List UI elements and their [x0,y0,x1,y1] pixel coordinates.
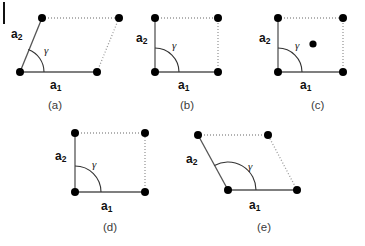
panel-c-caption: (c) [311,99,324,111]
panel-e-lattice-point-2 [194,131,202,139]
panel-d-lattice-point-3 [141,129,149,137]
panel-c-lattice-point-3 [339,14,347,22]
panel-a-caption: (a) [48,99,62,111]
panel-e-lattice-point-3 [264,131,272,139]
panel-c-a1-vector-label: a1 [300,78,311,92]
panel-a-group [16,14,123,76]
panel-d-caption: (d) [103,221,117,233]
panel-c-a2-vector-label: a2 [259,31,270,45]
panel-e-lattice-point-1 [293,186,301,194]
panel-b-a1-vector-label: a1 [178,78,189,92]
panel-b-gamma-arc [155,48,179,72]
panel-d-a1-vector-label: a1 [101,199,112,213]
panel-c-gamma-label: γ [295,39,299,51]
panel-a-solid-edge-origin-a2_end [20,18,42,72]
panel-d-gamma-label: γ [92,158,96,170]
panel-e-gamma-label: γ [248,160,252,172]
panel-a-a1-vector-label: a1 [50,78,61,92]
page-margin-mark [3,2,5,24]
bravais-lattices-figure: a1a2γ(a)a1a2γ(b)a1a2γ(c)a1a2γ(d)a1a2γ(e) [0,0,365,246]
lattice-diagram-svg [0,0,365,246]
panel-a-lattice-point-3 [115,14,123,22]
panel-a-lattice-point-1 [93,68,101,76]
panel-a-lattice-point-0 [16,68,24,76]
panel-d-a2-vector-label: a2 [55,149,66,163]
panel-b-lattice-point-2 [151,14,159,22]
panel-e-dotted-edge-a1_end-opposite [268,135,297,190]
panel-b-a2-vector-label: a2 [136,31,147,45]
panel-a-dotted-edge-a1_end-opposite [97,18,119,72]
panel-e-a1-vector-label: a1 [249,198,260,212]
panel-d-lattice-point-0 [71,188,79,196]
panel-b-gamma-label: γ [172,39,176,51]
panel-a-gamma-arc [28,49,44,72]
panel-e-a2-vector-label: a2 [186,152,197,166]
panel-e-caption: (e) [257,221,271,233]
panel-d-group [71,129,149,196]
panel-b-lattice-point-3 [214,14,222,22]
panel-c-group [274,14,347,76]
panel-b-lattice-point-1 [214,68,222,76]
panel-a-gamma-label: γ [44,44,48,56]
panel-a-lattice-point-2 [38,14,46,22]
panel-a-a2-vector-label: a2 [11,27,22,41]
panel-e-lattice-point-0 [224,186,232,194]
panel-b-lattice-point-0 [151,68,159,76]
panel-b-caption: (b) [180,99,194,111]
panel-c-lattice-point-0 [274,68,282,76]
panel-c-lattice-point-2 [274,14,282,22]
panel-c-lattice-point-1 [339,68,347,76]
panel-d-gamma-arc [75,166,101,192]
panel-d-lattice-point-1 [141,188,149,196]
panel-c-gamma-arc [278,48,302,72]
panel-b-group [151,14,222,76]
panel-c-center-lattice-point [309,40,316,47]
panel-d-lattice-point-2 [71,129,79,137]
